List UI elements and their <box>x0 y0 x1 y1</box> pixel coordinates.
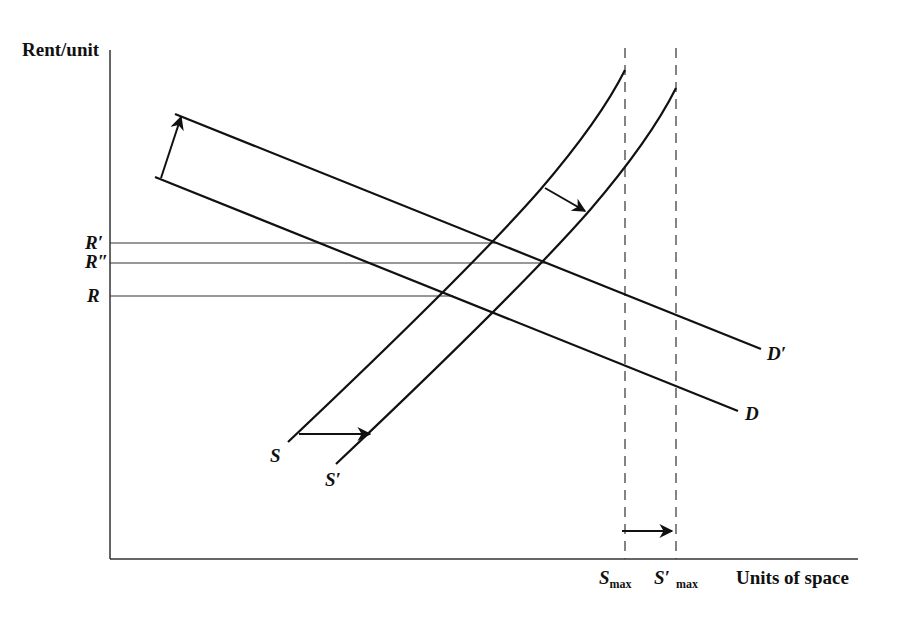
x-axis-label: Units of space <box>736 567 849 588</box>
curve-label-d-prime: D′ <box>766 343 786 364</box>
curve-label-s-prime: S′ <box>325 469 341 490</box>
rent-label-r-prime: R′ <box>84 232 103 253</box>
rent-label-r: R <box>86 285 100 306</box>
rent-label-r-double-prime: R″ <box>84 251 108 272</box>
demand-shift-arrow <box>161 117 181 178</box>
curve-label-d: D <box>744 403 759 424</box>
s-max-label: Smax <box>599 567 632 591</box>
y-axis-label: Rent/unit <box>22 39 100 60</box>
demand-curve-d <box>155 177 738 411</box>
demand-curve-d-prime <box>175 114 761 349</box>
rent-supply-demand-diagram: Rent/unit Units of space R′ R″ R S S′ D … <box>0 0 903 618</box>
s-prime-max-label: S′max <box>654 567 698 591</box>
supply-curve-s <box>288 70 625 442</box>
curve-label-s: S <box>270 445 281 466</box>
supply-shift-arrow-upper <box>545 188 585 211</box>
